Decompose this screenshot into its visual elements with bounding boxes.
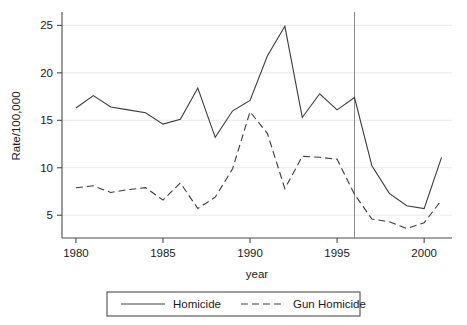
axes-group [62,12,452,238]
y-tick-label-10: 10 [40,162,53,174]
legend-label-gun-homicide: Gun Homicide [293,298,366,310]
chart-figure: 51015202519801985199019952000yearRate/10… [0,0,467,325]
gridlines-group [62,25,452,215]
line-chart: 51015202519801985199019952000yearRate/10… [0,0,467,325]
series-group [76,26,442,228]
y-tick-group: 510152025 [40,19,62,221]
series-line-gun-homicide [76,112,442,229]
x-tick-label-1990: 1990 [237,247,263,259]
y-tick-label-25: 25 [40,19,53,31]
y-axis-title: Rate/100,000 [10,91,22,160]
y-tick-label-20: 20 [40,67,53,79]
x-tick-label-1980: 1980 [63,247,89,259]
legend-label-homicide: Homicide [173,298,221,310]
x-axis-title: year [246,268,269,280]
x-tick-label-2000: 2000 [411,247,437,259]
x-tick-group: 19801985199019952000 [63,238,437,259]
series-line-homicide [76,26,442,208]
legend: HomicideGun Homicide [107,292,366,316]
x-tick-label-1985: 1985 [150,247,176,259]
x-tick-label-1995: 1995 [324,247,350,259]
y-tick-label-5: 5 [47,209,53,221]
y-tick-label-15: 15 [40,114,53,126]
